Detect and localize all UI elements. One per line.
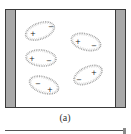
negative-charge-sign: −	[35, 80, 41, 88]
negative-charge-sign: −	[46, 57, 52, 65]
positive-charge-sign: +	[75, 38, 81, 46]
dipole-molecule: +−	[23, 18, 57, 43]
dipole-molecule: +−	[71, 61, 105, 88]
dipole-molecule: +−	[25, 49, 56, 68]
positive-charge-sign: +	[29, 55, 35, 63]
negative-charge-sign: −	[76, 76, 82, 84]
dipole-molecule: +−	[27, 73, 60, 97]
positive-charge-sign: +	[47, 86, 53, 94]
positive-charge-sign: +	[30, 30, 36, 38]
positive-charge-sign: +	[91, 69, 97, 77]
electron-cloud-inner	[29, 75, 59, 96]
negative-charge-sign: −	[91, 42, 97, 50]
next-figure-plate-edge	[123, 128, 126, 134]
dielectric-figure: +−+−+−+−+− (a)	[0, 0, 131, 134]
next-figure-top-edge	[5, 130, 125, 131]
figure-caption: (a)	[50, 112, 80, 124]
dipole-molecule: +−	[69, 30, 102, 53]
negative-charge-sign: −	[48, 23, 54, 31]
